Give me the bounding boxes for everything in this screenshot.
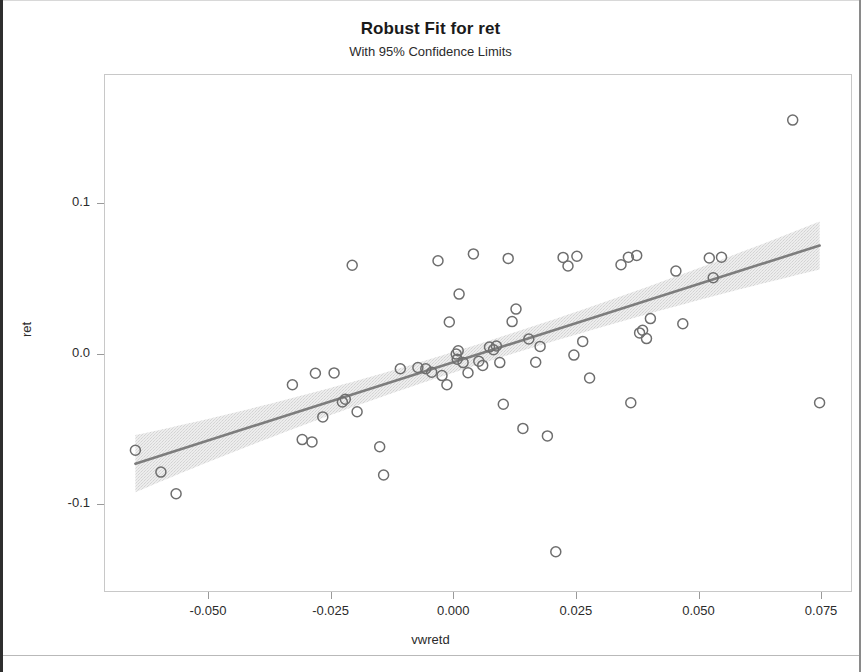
robust-fit-line bbox=[135, 246, 819, 464]
scatter-point bbox=[518, 423, 528, 433]
scatter-point bbox=[511, 304, 521, 314]
page-top-rule bbox=[3, 0, 859, 1]
scatter-point bbox=[542, 431, 552, 441]
scatter-point bbox=[551, 547, 561, 557]
x-tick-label: -0.050 bbox=[168, 603, 248, 618]
scatter-point bbox=[375, 442, 385, 452]
chart-title: Robust Fit for ret bbox=[0, 19, 861, 39]
x-tick-mark bbox=[453, 592, 454, 599]
x-tick-label: 0.025 bbox=[536, 603, 616, 618]
scatter-point bbox=[287, 380, 297, 390]
x-tick-label: 0.000 bbox=[413, 603, 493, 618]
x-tick-label: 0.075 bbox=[781, 603, 861, 618]
scatter-point bbox=[503, 253, 513, 263]
y-axis-title: ret bbox=[19, 300, 34, 360]
scatter-point bbox=[678, 319, 688, 329]
scatter-point bbox=[171, 489, 181, 499]
scatter-point bbox=[442, 380, 452, 390]
scatter-point bbox=[310, 368, 320, 378]
scatter-point bbox=[352, 407, 362, 417]
scatter-point bbox=[444, 317, 454, 327]
scatter-point bbox=[585, 373, 595, 383]
x-tick-mark bbox=[576, 592, 577, 599]
y-tick-mark bbox=[97, 354, 104, 355]
scatter-point bbox=[454, 289, 464, 299]
scatter-point bbox=[704, 253, 714, 263]
x-tick-mark bbox=[331, 592, 332, 599]
scatter-point bbox=[307, 437, 317, 447]
scatter-point bbox=[626, 398, 636, 408]
y-tick-label: -0.1 bbox=[44, 495, 90, 510]
scatter-point bbox=[498, 399, 508, 409]
scatter-point bbox=[563, 261, 573, 271]
y-tick-label: 0.1 bbox=[44, 194, 90, 209]
scatter-point bbox=[329, 368, 339, 378]
y-tick-mark bbox=[97, 203, 104, 204]
scatter-point bbox=[815, 398, 825, 408]
y-tick-mark bbox=[97, 504, 104, 505]
chart-subtitle: With 95% Confidence Limits bbox=[0, 44, 861, 59]
scatter-point bbox=[572, 251, 582, 261]
scatter-point bbox=[788, 115, 798, 125]
scatter-point bbox=[531, 357, 541, 367]
scatter-point bbox=[635, 328, 645, 338]
scatter-point bbox=[347, 260, 357, 270]
scatter-point bbox=[642, 334, 652, 344]
scatter-point bbox=[645, 314, 655, 324]
scatter-point bbox=[569, 350, 579, 360]
x-tick-mark bbox=[699, 592, 700, 599]
plot-area bbox=[104, 74, 852, 592]
scatter-point bbox=[468, 249, 478, 259]
scatter-point bbox=[463, 368, 473, 378]
scatter-points bbox=[130, 115, 824, 557]
x-tick-label: -0.025 bbox=[291, 603, 371, 618]
scatter-point bbox=[495, 358, 505, 368]
x-axis-title: vwretd bbox=[0, 632, 861, 647]
scatter-point bbox=[578, 336, 588, 346]
page-bottom-rule bbox=[3, 655, 859, 656]
scatter-point bbox=[507, 317, 517, 327]
scatter-point bbox=[433, 256, 443, 266]
x-tick-mark bbox=[821, 592, 822, 599]
scatter-point bbox=[297, 435, 307, 445]
page-left-border bbox=[0, 0, 3, 672]
scatter-point bbox=[379, 470, 389, 480]
scatter-point bbox=[671, 266, 681, 276]
plot-canvas bbox=[105, 75, 852, 592]
chart-screenshot: Robust Fit for ret With 95% Confidence L… bbox=[0, 0, 861, 672]
x-tick-mark bbox=[208, 592, 209, 599]
y-tick-label: 0.0 bbox=[44, 345, 90, 360]
x-tick-label: 0.050 bbox=[659, 603, 739, 618]
